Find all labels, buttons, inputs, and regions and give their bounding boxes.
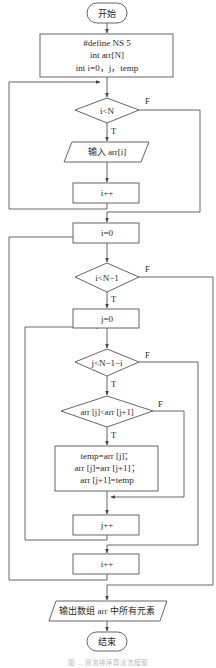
node-cond1: i<N [75,98,139,123]
reset-i-label: i=0 [101,228,114,238]
label-cond1-false: F [145,96,150,106]
label-cond3-false: F [145,350,150,360]
node-inc-i2: i++ [73,554,139,574]
node-inc-j: j++ [73,515,139,535]
reset-j-label: j=0 [100,314,114,324]
swap-line-1: temp=arr [j]； [81,451,134,461]
node-output: 输出数组 arr 中所有元素 [49,601,167,621]
swap-line-3: arr [j+1]=temp [80,475,134,485]
label-cond3-true: T [111,379,117,389]
node-cond3: j<N−1−i [75,349,139,376]
label-cond2-true: T [111,294,117,304]
node-reset-j: j=0 [73,309,139,328]
label-cond2-false: F [145,264,150,274]
edge-cond1-false [107,110,200,222]
cond4-label: arr [j]<arr [j+1] [80,407,133,417]
swap-line-2: arr [j]=arr [j+1]； [74,463,139,473]
inc-j-label: j++ [100,520,114,530]
label-cond1-true: T [111,126,117,136]
start-label: 开始 [98,8,116,19]
cond3-label: j<N−1−i [90,358,123,368]
end-label: 结束 [98,636,116,647]
node-init: #define NS 5 int arr[N] int i=0，j，temp [40,34,173,77]
node-start: 开始 [87,3,127,23]
node-input: 输入 arr[i] [64,142,149,162]
node-cond4: arr [j]<arr [j+1] [61,396,153,427]
cond1-label: i<N [100,106,115,116]
node-inc-i1: i++ [73,183,139,203]
init-line-1: #define NS 5 [83,38,131,48]
init-line-3: int i=0，j，temp [76,63,139,73]
init-line-2: int arr[N] [90,50,124,60]
flowchart-canvas: F T F T F T F T 开始 #define NS 5 int arr[… [0,0,216,668]
node-cond2: i<N−1 [75,263,139,292]
figure-caption: 图 … 冒泡排序算法流程图 [68,658,148,667]
output-label: 输出数组 arr 中所有元素 [59,605,155,616]
input-label: 输入 arr[i] [88,146,127,157]
node-end: 结束 [87,632,127,651]
label-cond4-true: T [111,430,117,440]
label-cond4-false: F [158,399,163,409]
node-swap: temp=arr [j]； arr [j]=arr [j+1]； arr [j+… [55,446,158,491]
inc-i2-label: i++ [101,559,114,569]
inc-i1-label: i++ [101,188,114,198]
cond2-label: i<N−1 [95,273,119,283]
node-reset-i: i=0 [73,223,139,243]
